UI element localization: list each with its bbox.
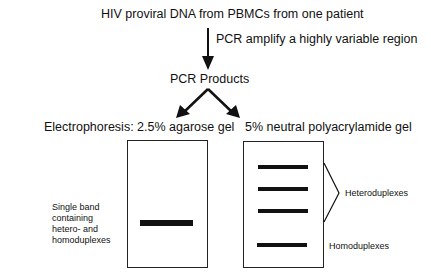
down-arrow: [202, 28, 214, 70]
homoduplex-band: [257, 243, 307, 247]
heteroduplex-band-3: [258, 209, 308, 213]
agarose-gel-title: Electrophoresis: 2.5% agarose gel: [44, 121, 234, 134]
single-band: [140, 220, 193, 226]
pcr-products-label: PCR Products: [170, 73, 249, 86]
pcr-step-label: PCR amplify a highly variable region: [216, 33, 417, 46]
single-band-label: Single band containing hetero- and homod…: [52, 202, 111, 246]
polyacrylamide-gel: [244, 142, 324, 268]
polyacrylamide-gel-title: 5% neutral polyacrylamide gel: [245, 121, 412, 134]
heteroduplex-band-2: [258, 187, 308, 191]
split-arrows: [176, 89, 240, 118]
homoduplexes-label: Homoduplexes: [329, 241, 389, 252]
source-label: HIV proviral DNA from PBMCs from one pat…: [101, 8, 364, 21]
heteroduplex-band-1: [258, 165, 308, 169]
agarose-gel: [128, 141, 208, 268]
heteroduplex-bracket: [324, 163, 339, 222]
heteroduplexes-label: Heteroduplexes: [345, 188, 408, 199]
